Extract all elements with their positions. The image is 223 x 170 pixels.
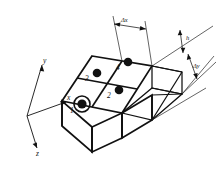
node-3-label: 3 bbox=[84, 74, 89, 83]
axis-z bbox=[27, 116, 37, 148]
coordinate-axes: y x z bbox=[27, 56, 71, 158]
axis-label-y: y bbox=[42, 56, 47, 65]
node-2-marker bbox=[115, 86, 124, 95]
dimension-h-label: h bbox=[186, 34, 189, 41]
axis-x bbox=[27, 101, 66, 116]
node-4-marker bbox=[124, 58, 133, 67]
top-face-cells bbox=[62, 56, 152, 113]
axis-label-z: z bbox=[35, 149, 39, 158]
node-2: 2 bbox=[107, 86, 123, 100]
node-1-marker bbox=[77, 99, 86, 108]
node-3-marker bbox=[93, 69, 102, 78]
dimension-dx: Δx bbox=[113, 16, 152, 66]
dimension-dy-label: Δy bbox=[192, 62, 200, 69]
node-4-label: 4 bbox=[116, 63, 120, 72]
mesh-figure: y x z bbox=[0, 0, 223, 170]
node-2-label: 2 bbox=[107, 91, 111, 100]
dimension-dx-label: Δx bbox=[120, 16, 128, 23]
axis-y bbox=[27, 65, 44, 116]
dimension-dy: Δy bbox=[152, 54, 216, 120]
node-1-label: 1 bbox=[70, 106, 74, 115]
dimension-h: h bbox=[152, 26, 214, 94]
